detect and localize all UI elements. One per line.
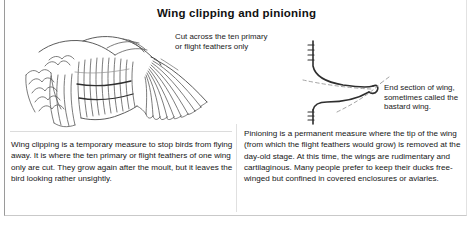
paragraph-wing-clipping: Wing clipping is a temporary measure to … [11,139,233,184]
divider-horizontal [10,131,232,132]
page-title: Wing clipping and pinioning [5,7,468,19]
wingtip-illustration [297,36,402,126]
callout-cut-line: Cut across the ten primary or flight fea… [175,32,305,51]
paragraph-pinioning: Pinioning is a permanent measure where t… [244,128,470,184]
divider-vertical [236,124,237,212]
callout-end-section: End section of wing, sometimes called th… [384,83,471,112]
figure-panel: Wing clipping and pinioning [4,0,467,216]
